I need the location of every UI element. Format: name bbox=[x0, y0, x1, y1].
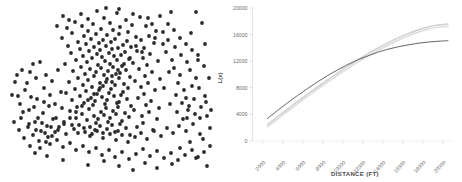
scatter-point bbox=[86, 78, 90, 82]
scatter-point bbox=[61, 158, 65, 162]
scatter-point bbox=[101, 131, 105, 135]
scatter-point bbox=[68, 141, 72, 145]
scatter-point bbox=[107, 148, 111, 152]
y-axis-title: L(x) bbox=[217, 73, 223, 84]
scatter-point bbox=[86, 98, 90, 102]
scatter-point bbox=[184, 96, 188, 100]
scatter-point bbox=[194, 10, 198, 14]
scatter-point bbox=[110, 123, 114, 127]
scatter-point bbox=[162, 86, 166, 90]
scatter-point bbox=[199, 105, 203, 109]
scatter-point bbox=[156, 59, 160, 63]
scatter-point bbox=[98, 81, 102, 85]
scatter-point bbox=[188, 140, 192, 144]
line-series-light-band-upper bbox=[268, 24, 448, 124]
scatter-point bbox=[82, 126, 86, 130]
scatter-point bbox=[105, 127, 109, 131]
scatter-point bbox=[127, 115, 131, 119]
scatter-point bbox=[37, 139, 41, 143]
scatter-point bbox=[126, 86, 130, 90]
scatter-point bbox=[94, 146, 98, 150]
scatter-point bbox=[165, 126, 169, 130]
scatter-point bbox=[45, 154, 49, 158]
scatter-point bbox=[70, 31, 74, 35]
scatter-point bbox=[34, 128, 38, 132]
scatter-point bbox=[115, 101, 119, 105]
scatter-point bbox=[105, 98, 109, 102]
x-tick-label: 18000 bbox=[412, 159, 427, 174]
scatter-point bbox=[15, 73, 19, 77]
scatter-point bbox=[150, 70, 154, 74]
scatter-point bbox=[209, 108, 213, 112]
scatter-point bbox=[118, 25, 122, 29]
scatter-point bbox=[92, 45, 96, 49]
scatter-point bbox=[45, 124, 49, 128]
scatter-point bbox=[131, 12, 135, 16]
scatter-point bbox=[86, 17, 90, 21]
scatter-point bbox=[128, 75, 132, 79]
scatter-point bbox=[103, 59, 107, 63]
scatter-point bbox=[23, 88, 27, 92]
scatter-point bbox=[166, 22, 170, 26]
x-tick-label: 16000 bbox=[392, 159, 407, 174]
scatter-point bbox=[26, 125, 30, 129]
scatter-point bbox=[126, 30, 130, 34]
scatter-point bbox=[136, 96, 140, 100]
scatter-point bbox=[76, 131, 80, 135]
scatter-point bbox=[104, 44, 108, 48]
scatter-point bbox=[90, 85, 94, 89]
scatter-point bbox=[198, 132, 202, 136]
scatter-point bbox=[179, 53, 183, 57]
x-tick-label: 20000 bbox=[432, 159, 447, 174]
scatter-point bbox=[141, 147, 145, 151]
scatter-point bbox=[90, 56, 94, 60]
scatter-point bbox=[77, 123, 81, 127]
scatter-point bbox=[112, 54, 116, 58]
scatter-point bbox=[76, 76, 80, 80]
scatter-point bbox=[113, 37, 117, 41]
scatter-point bbox=[119, 53, 123, 57]
scatter-point bbox=[185, 116, 189, 120]
scatter-point bbox=[146, 81, 150, 85]
scatter-point bbox=[84, 42, 88, 46]
scatter-point bbox=[194, 76, 198, 80]
scatter-point bbox=[147, 110, 151, 114]
scatter-point bbox=[84, 89, 88, 93]
scatter-point bbox=[117, 76, 121, 80]
line-series-group bbox=[268, 24, 448, 127]
scatter-point bbox=[62, 122, 66, 126]
scatter-point bbox=[109, 87, 113, 91]
scatter-point bbox=[56, 68, 60, 72]
scatter-point bbox=[174, 93, 178, 97]
scatter-point bbox=[155, 149, 159, 153]
scatter-point bbox=[159, 134, 163, 138]
scatter-point bbox=[99, 66, 103, 70]
scatter-point bbox=[114, 112, 118, 116]
scatter-point bbox=[44, 140, 48, 144]
scatter-point bbox=[79, 12, 83, 16]
y-tick-label: 8000 bbox=[236, 85, 248, 91]
scatter-point bbox=[76, 40, 80, 44]
scatter-point bbox=[47, 104, 51, 108]
scatter-point bbox=[181, 117, 185, 121]
scatter-point bbox=[70, 98, 74, 102]
scatter-point bbox=[69, 51, 73, 55]
scatter-point bbox=[186, 108, 190, 112]
scatter-point bbox=[202, 150, 206, 154]
scatter-point bbox=[124, 68, 128, 72]
scatter-point bbox=[108, 116, 112, 120]
scatter-point bbox=[134, 35, 138, 39]
scatter-point bbox=[44, 73, 48, 77]
scatter-point bbox=[98, 48, 102, 52]
scatter-point bbox=[104, 106, 108, 110]
scatter-point bbox=[101, 136, 105, 140]
scatter-point bbox=[12, 120, 16, 124]
scatter-point bbox=[43, 131, 47, 135]
scatter-point bbox=[18, 102, 22, 106]
scatter-point bbox=[144, 24, 148, 28]
scatter-point bbox=[166, 38, 170, 42]
scatter-point bbox=[61, 14, 65, 18]
scatter-point bbox=[201, 137, 205, 141]
scatter-point bbox=[61, 145, 65, 149]
scatter-point bbox=[169, 151, 173, 155]
